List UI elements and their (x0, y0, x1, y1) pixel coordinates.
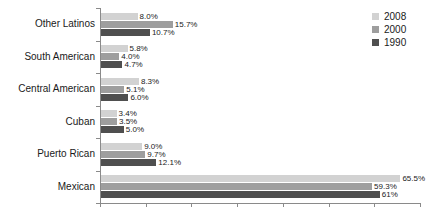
y-axis-tick (96, 203, 100, 204)
x-axis-tick (237, 203, 238, 207)
category-label: Cuban (66, 116, 95, 127)
x-axis-line (100, 203, 420, 204)
bar (101, 191, 380, 198)
y-axis-tick (96, 106, 100, 107)
bar (101, 94, 128, 101)
bar (101, 183, 372, 190)
legend-item[interactable]: 1990 (372, 36, 406, 49)
bar (101, 78, 139, 85)
legend-swatch-icon (372, 39, 379, 46)
bar-value-label: 65.5% (402, 175, 425, 183)
legend-item[interactable]: 2008 (372, 10, 406, 23)
x-axis-tick (420, 203, 421, 207)
bar-value-label: 10.7% (152, 29, 175, 37)
legend-item[interactable]: 2000 (372, 23, 406, 36)
category-label: Central American (18, 83, 95, 94)
bar-value-label: 6.0% (130, 94, 148, 102)
x-axis-tick (146, 203, 147, 207)
bar-value-label: 15.7% (175, 21, 198, 29)
bar-value-label: 12.1% (158, 159, 181, 167)
y-axis-tick (96, 8, 100, 9)
x-axis-tick (329, 203, 330, 207)
bar-value-label: 8.0% (140, 13, 158, 21)
bar (101, 13, 138, 20)
legend-swatch-icon (372, 13, 379, 20)
bar-value-label: 5.0% (126, 126, 144, 134)
bar (101, 29, 150, 36)
category-label: Puerto Rican (37, 148, 95, 159)
x-axis-tick (283, 203, 284, 207)
bar (101, 110, 117, 117)
category-label: Mexican (58, 181, 95, 192)
bar (101, 143, 142, 150)
horizontal-bar-chart: Other LatinosSouth AmericanCentral Ameri… (0, 0, 431, 220)
bar (101, 151, 145, 158)
bar-value-label: 4.7% (124, 61, 142, 69)
y-axis-tick (96, 138, 100, 139)
y-axis-tick (96, 41, 100, 42)
category-label: Other Latinos (35, 18, 95, 29)
y-axis-tick (96, 73, 100, 74)
bar-value-label: 61% (382, 191, 398, 199)
bar (101, 21, 173, 28)
y-axis-line (100, 8, 101, 203)
bar (101, 175, 400, 182)
bar (101, 126, 124, 133)
bar (101, 118, 117, 125)
x-axis-tick (191, 203, 192, 207)
x-axis-tick (374, 203, 375, 207)
bar (101, 86, 124, 93)
x-axis-tick (100, 203, 101, 207)
legend-label: 1990 (384, 37, 406, 48)
chart-legend: 200820001990 (372, 10, 406, 49)
bar (101, 45, 128, 52)
legend-label: 2008 (384, 11, 406, 22)
legend-label: 2000 (384, 24, 406, 35)
bar (101, 159, 156, 166)
bar (101, 61, 122, 68)
category-label: South American (24, 51, 95, 62)
y-axis-tick (96, 171, 100, 172)
legend-swatch-icon (372, 26, 379, 33)
bar (101, 53, 119, 60)
